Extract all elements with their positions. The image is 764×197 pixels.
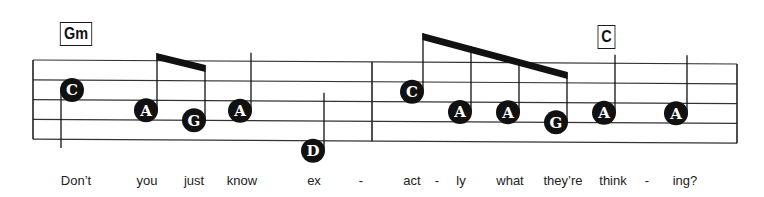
note-letter: G	[550, 114, 563, 132]
note-letter: C	[406, 83, 418, 101]
note-head-a: A	[664, 101, 688, 125]
music-staff: CAGADCAAGAA	[0, 0, 764, 197]
lyric-syllable: ing?	[673, 173, 698, 188]
note-letter: A	[669, 105, 682, 123]
note-letter: A	[597, 104, 610, 122]
note-letter: A	[453, 103, 466, 121]
staff-line	[33, 139, 737, 143]
staff-line	[33, 119, 737, 123]
note-letter: A	[233, 102, 246, 120]
note-head-a: A	[592, 101, 616, 125]
stems	[61, 33, 687, 151]
note-letter: A	[139, 102, 152, 120]
note-letter: A	[501, 104, 514, 122]
lyric-hyphen: -	[435, 173, 439, 188]
note-letter: C	[66, 81, 78, 99]
note-letter: D	[306, 142, 319, 160]
chord-symbol-c: C	[598, 25, 616, 49]
beam	[422, 33, 567, 79]
note-head-c: C	[60, 78, 84, 102]
lyric-syllable: think	[599, 173, 626, 188]
staff-line	[33, 60, 737, 64]
lyric-syllable: Don’t	[61, 173, 91, 188]
note-head-a: A	[496, 100, 520, 124]
lyric-syllable: act	[403, 173, 420, 188]
note-head-d: D	[301, 139, 325, 163]
beams	[156, 33, 567, 79]
lyric-hyphen: -	[645, 173, 649, 188]
lyric-syllable: what	[496, 173, 523, 188]
note-letter: G	[188, 112, 201, 130]
note-head-g: G	[544, 110, 568, 134]
staff-line	[33, 80, 737, 84]
lyric-syllable: ly	[456, 173, 465, 188]
beam	[156, 53, 205, 72]
note-head-g: G	[182, 108, 206, 132]
note-head-a: A	[228, 99, 252, 123]
note-head-a: A	[448, 100, 472, 124]
lyric-syllable: just	[184, 173, 204, 188]
note-head-a: A	[134, 98, 158, 122]
lyric-syllable: they’re	[543, 173, 582, 188]
lyric-syllable: ex	[307, 173, 321, 188]
note-head-c: C	[400, 80, 424, 104]
chord-symbol-gm: Gm	[60, 22, 92, 46]
lyric-hyphen: -	[359, 173, 363, 188]
lyric-syllable: you	[137, 173, 158, 188]
lyric-syllable: know	[227, 173, 257, 188]
